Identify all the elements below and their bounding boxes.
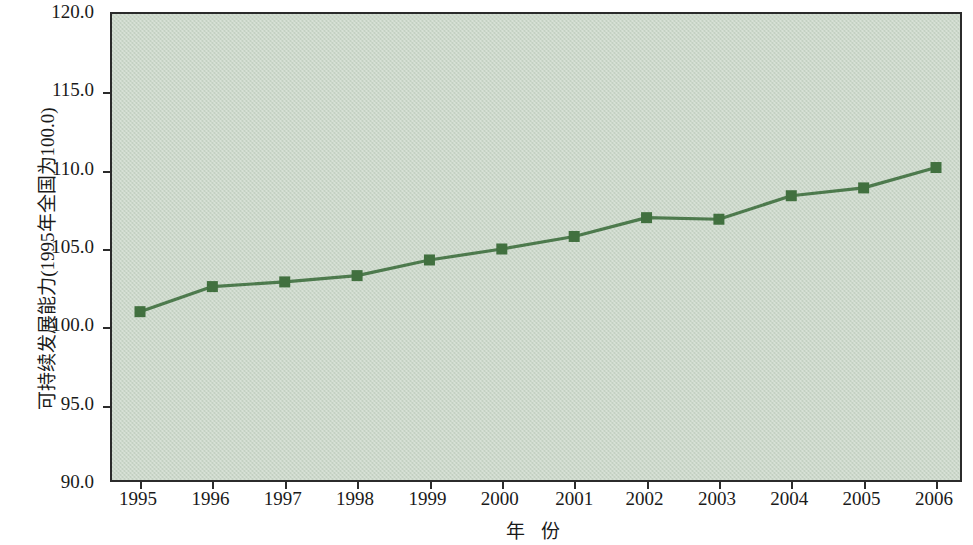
plot-area bbox=[110, 12, 962, 482]
y-tick-label: 115.0 bbox=[2, 80, 94, 99]
x-tick-label: 1995 bbox=[98, 488, 178, 510]
y-axis-tick bbox=[103, 327, 112, 329]
y-tick-label: 95.0 bbox=[2, 394, 94, 413]
data-point-marker bbox=[858, 182, 869, 193]
x-axis-title: 年 份 bbox=[110, 516, 962, 543]
y-tick-label: 110.0 bbox=[2, 159, 94, 178]
data-point-marker bbox=[569, 231, 580, 242]
data-point-marker bbox=[207, 281, 218, 292]
x-axis-tick-labels: 1995 1996 1997 1998 1999 2000 2001 2002 … bbox=[110, 488, 962, 514]
x-tick-label: 2006 bbox=[894, 488, 973, 510]
x-tick-label: 1996 bbox=[170, 488, 250, 510]
x-tick-label: 2002 bbox=[605, 488, 685, 510]
x-tick-label: 1998 bbox=[315, 488, 395, 510]
x-tick-label: 2000 bbox=[460, 488, 540, 510]
data-point-marker bbox=[424, 254, 435, 265]
x-tick-label: 2004 bbox=[749, 488, 829, 510]
y-axis-tick bbox=[103, 406, 112, 408]
series-line bbox=[140, 168, 936, 312]
data-point-marker bbox=[786, 190, 797, 201]
y-tick-label: 90.0 bbox=[2, 472, 94, 491]
series-sustainable-development-capability bbox=[112, 14, 964, 484]
y-tick-label: 120.0 bbox=[2, 2, 94, 21]
y-axis-tick bbox=[103, 171, 112, 173]
data-point-marker bbox=[641, 212, 652, 223]
x-tick-label: 2003 bbox=[677, 488, 757, 510]
data-point-marker bbox=[496, 244, 507, 255]
x-tick-label: 2001 bbox=[534, 488, 614, 510]
y-tick-label: 105.0 bbox=[2, 237, 94, 256]
x-tick-label: 2005 bbox=[822, 488, 902, 510]
y-tick-label: 100.0 bbox=[2, 315, 94, 334]
data-point-marker bbox=[279, 276, 290, 287]
y-axis-tick-labels: 120.0 115.0 110.0 105.0 100.0 95.0 90.0 bbox=[0, 0, 100, 545]
chart-root: 可持续发展能力(1995年全国为100.0) 120.0 115.0 110.0… bbox=[0, 0, 973, 545]
y-axis-tick bbox=[103, 92, 112, 94]
data-point-marker bbox=[713, 214, 724, 225]
y-axis-tick bbox=[103, 249, 112, 251]
data-point-marker bbox=[931, 162, 942, 173]
data-point-marker bbox=[352, 270, 363, 281]
series-markers bbox=[135, 162, 942, 317]
x-tick-label: 1999 bbox=[388, 488, 468, 510]
x-tick-label: 1997 bbox=[243, 488, 323, 510]
data-point-marker bbox=[135, 306, 146, 317]
